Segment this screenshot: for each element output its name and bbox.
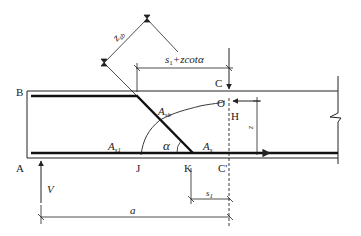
label-V: V — [47, 183, 55, 195]
label-A: A — [16, 162, 24, 174]
label-J: J — [136, 162, 141, 174]
alpha-arc — [177, 141, 181, 153]
beam-diagram: B A C O H J K C' zsb s1+zcotα Asb As1 As… — [0, 0, 361, 236]
label-s1: s1 — [206, 188, 213, 200]
label-As: As — [202, 140, 213, 154]
label-C: C — [215, 77, 222, 89]
label-As1: As1 — [107, 140, 121, 154]
label-Asb: Asb — [157, 105, 171, 119]
label-C-prime: C' — [218, 162, 227, 174]
label-a: a — [130, 204, 136, 216]
a-dimension — [38, 205, 233, 224]
label-z: z — [247, 125, 256, 130]
label-alpha: α — [163, 138, 171, 153]
label-H: H — [231, 110, 239, 122]
label-s1-zcot: s1+zcotα — [165, 53, 204, 67]
beam-outline — [27, 76, 341, 164]
label-K: K — [184, 162, 192, 174]
label-zsb: zsb — [109, 27, 127, 45]
label-O: O — [217, 97, 225, 109]
label-B: B — [16, 86, 23, 98]
